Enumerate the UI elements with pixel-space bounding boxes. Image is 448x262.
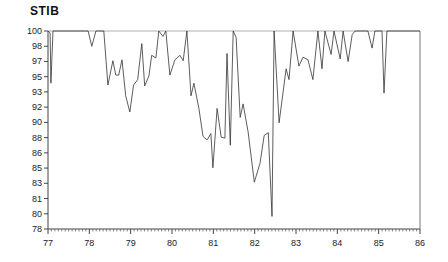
y-tick-label: 97 bbox=[32, 56, 42, 66]
x-tick-label: 80 bbox=[167, 238, 177, 248]
x-tick-label: 83 bbox=[291, 238, 301, 248]
y-tick-label: 88 bbox=[32, 133, 42, 143]
x-tick-label: 79 bbox=[126, 238, 136, 248]
x-tick-label: 84 bbox=[332, 238, 342, 248]
y-tick-label: 95 bbox=[32, 72, 42, 82]
y-tick-label: 93 bbox=[32, 87, 42, 97]
series-line-stib bbox=[48, 31, 420, 216]
y-tick-label: 83 bbox=[32, 178, 42, 188]
y-tick-label: 85 bbox=[32, 163, 42, 173]
y-tick-label: 81 bbox=[32, 194, 42, 204]
x-tick-label: 78 bbox=[84, 238, 94, 248]
y-axis: 10098979593929088868583818078 bbox=[27, 26, 48, 234]
x-tick-label: 81 bbox=[208, 238, 218, 248]
y-tick-label: 90 bbox=[32, 117, 42, 127]
x-tick-label: 86 bbox=[415, 238, 425, 248]
axes bbox=[48, 31, 420, 229]
line-chart: 10098979593929088868583818078 7778798081… bbox=[0, 0, 448, 262]
x-tick-label: 82 bbox=[250, 238, 260, 248]
y-tick-label: 100 bbox=[27, 26, 42, 36]
x-tick-label: 77 bbox=[43, 238, 53, 248]
y-tick-label: 80 bbox=[32, 209, 42, 219]
y-tick-label: 78 bbox=[32, 224, 42, 234]
y-tick-label: 86 bbox=[32, 148, 42, 158]
x-tick-label: 85 bbox=[374, 238, 384, 248]
y-tick-label: 92 bbox=[32, 102, 42, 112]
y-tick-label: 98 bbox=[32, 41, 42, 51]
x-axis: 77787980818283848586 bbox=[43, 229, 425, 248]
